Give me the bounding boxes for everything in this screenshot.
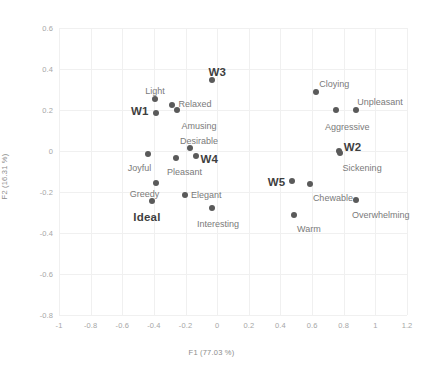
- y-axis-tick-label: -0.6: [25, 270, 53, 279]
- data-point[interactable]: [289, 178, 295, 184]
- gridline-vertical: [312, 28, 313, 315]
- y-axis-tick-label: -0.2: [25, 188, 53, 197]
- y-axis-tick-label: -0.4: [25, 229, 53, 238]
- data-point[interactable]: [337, 150, 343, 156]
- gridline-horizontal: [59, 315, 407, 316]
- gridline-horizontal: [59, 69, 407, 70]
- data-point[interactable]: [313, 89, 319, 95]
- gridline-horizontal: [59, 28, 407, 29]
- data-point[interactable]: [307, 181, 313, 187]
- x-axis-tick-label: -0.6: [116, 321, 129, 330]
- x-axis-tick-label: 0: [215, 321, 219, 330]
- gridline-vertical: [249, 28, 250, 315]
- data-point-label: Light: [145, 86, 165, 96]
- data-point[interactable]: [174, 107, 180, 113]
- y-axis-tick-label: 0.6: [25, 24, 53, 33]
- gridline-vertical: [91, 28, 92, 315]
- data-point[interactable]: [152, 96, 158, 102]
- gridline-vertical: [59, 28, 60, 315]
- data-point-label: W5: [268, 176, 286, 188]
- x-axis-tick-label: -1: [56, 321, 63, 330]
- x-axis-title: F1 (77.03 %): [0, 348, 423, 357]
- gridline-horizontal: [59, 233, 407, 234]
- data-point-label: Relaxed: [178, 99, 211, 109]
- data-point-label: Overwhelming: [352, 210, 410, 220]
- y-axis-tick-label: 0.2: [25, 106, 53, 115]
- data-point-label: Interesting: [197, 219, 239, 229]
- data-point-label: W4: [201, 153, 219, 165]
- x-axis-tick-label: -0.2: [179, 321, 192, 330]
- data-point-label: Warm: [297, 224, 321, 234]
- data-point-label: Pleasant: [167, 167, 202, 177]
- x-axis-tick-label: 0.4: [275, 321, 286, 330]
- data-point[interactable]: [291, 212, 297, 218]
- data-point[interactable]: [182, 192, 188, 198]
- x-axis-tick-label: 0.8: [338, 321, 349, 330]
- scatter-plot: F1 (77.03 %) F2 (16.31 %) -1-0.8-0.6-0.4…: [0, 0, 423, 374]
- data-point-label: Unpleasant: [357, 97, 403, 107]
- data-point-label: Greedy: [130, 189, 160, 199]
- data-point-label: Amusing: [182, 121, 217, 131]
- gridline-vertical: [154, 28, 155, 315]
- x-axis-tick-label: 1.2: [402, 321, 413, 330]
- data-point[interactable]: [193, 153, 199, 159]
- x-axis-tick-label: -0.4: [147, 321, 160, 330]
- data-point-label: Elegant: [191, 190, 222, 200]
- data-point-label: W1: [131, 105, 149, 117]
- gridline-vertical: [407, 28, 408, 315]
- data-point-label: Joyful: [128, 163, 152, 173]
- data-point[interactable]: [173, 155, 179, 161]
- y-axis-title: F2 (16.31 %): [0, 154, 9, 200]
- data-point-label: Aggressive: [325, 122, 370, 132]
- data-point[interactable]: [333, 107, 339, 113]
- data-point-label: Ideal: [133, 211, 160, 223]
- data-point[interactable]: [187, 145, 193, 151]
- gridline-horizontal: [59, 192, 407, 193]
- x-axis-tick-label: -0.8: [84, 321, 97, 330]
- data-point-label: Chewable: [313, 193, 353, 203]
- data-point-label: W2: [344, 141, 362, 153]
- gridline-horizontal: [59, 274, 407, 275]
- x-axis-tick-label: 0.6: [307, 321, 318, 330]
- data-point-label: W3: [208, 66, 226, 78]
- data-point-label: Sickening: [343, 163, 382, 173]
- y-axis-tick-label: -0.8: [25, 311, 53, 320]
- data-point-label: Cloying: [319, 79, 349, 89]
- gridline-vertical: [280, 28, 281, 315]
- data-point-label: Desirable: [180, 136, 218, 146]
- x-axis-tick-label: 1: [373, 321, 377, 330]
- data-point[interactable]: [353, 107, 359, 113]
- gridline-vertical: [122, 28, 123, 315]
- x-axis-tick-label: 0.2: [243, 321, 254, 330]
- y-axis-tick-label: 0.4: [25, 65, 53, 74]
- y-axis-tick-label: 0: [25, 147, 53, 156]
